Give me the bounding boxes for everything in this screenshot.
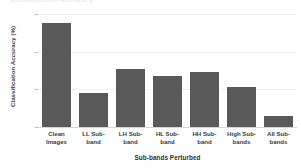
bar [116,69,145,127]
x-tick-label: High Sub- bands [223,130,260,146]
x-axis-title: Sub-bands Perturbed [38,154,297,161]
chart-title-clipped: Classification Accuracy [10,0,93,3]
bars-container [38,14,297,127]
x-tick-label: HH Sub- band [186,130,223,146]
x-tick-label: LH Sub- band [112,130,149,146]
bar [264,116,293,127]
bar [79,93,108,127]
bar [227,87,256,127]
bar-chart-figure: Classification Accuracy Classification A… [0,0,301,168]
x-tick-label: All Sub- bands [260,130,297,146]
bar [190,72,219,127]
bar [153,76,182,127]
x-tick-label: LL Sub- band [75,130,112,146]
y-axis-title: Classification Accuracy (%) [9,7,16,127]
x-axis-tick-labels: Clean ImagesLL Sub- bandLH Sub- bandHL S… [38,130,297,152]
x-tick-label: HL Sub- band [149,130,186,146]
x-axis-line [38,127,297,128]
x-tick-label: Clean Images [38,130,75,146]
bar [42,23,71,127]
